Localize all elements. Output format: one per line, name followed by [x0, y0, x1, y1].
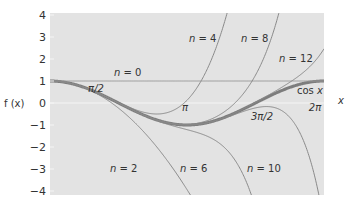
series-label: n = 2: [110, 163, 137, 174]
x-tick-label: 2π: [309, 102, 322, 113]
y-tick-label: 0: [39, 97, 46, 110]
y-tick-label: 3: [39, 31, 46, 44]
y-tick-label: −2: [30, 141, 46, 154]
y-tick-label: 2: [39, 53, 46, 66]
x-tick-label: π: [182, 102, 189, 113]
taylor-cos-chart: 43210−1−2−3−4 π/2π3π/22π n = 0n = 2n = 4…: [0, 0, 356, 205]
series-label: n = 6: [180, 163, 207, 174]
y-tick-label: 1: [39, 75, 46, 88]
series-label: cos x: [297, 85, 323, 96]
series-label: n = 10: [247, 163, 281, 174]
x-tick-label: 3π/2: [251, 111, 273, 122]
series-label: n = 0: [114, 67, 141, 78]
x-tick-label: π/2: [88, 83, 104, 94]
y-axis-label: f (x): [4, 98, 25, 109]
series-label: n = 12: [279, 53, 313, 64]
y-tick-label: −3: [30, 163, 46, 176]
y-tick-label: −1: [30, 119, 46, 132]
x-axis-label: x: [337, 95, 344, 106]
series-label: n = 8: [241, 33, 268, 44]
y-tick-label: −4: [30, 185, 46, 198]
series-label: n = 4: [189, 33, 216, 44]
y-tick-label: 4: [39, 9, 46, 22]
